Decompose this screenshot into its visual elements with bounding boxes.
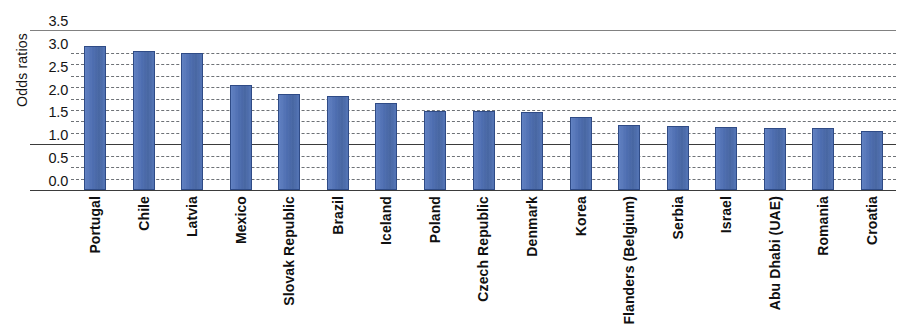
bar[interactable]	[618, 125, 640, 190]
x-tick-label-slot: Israel	[702, 192, 751, 335]
bar[interactable]	[667, 126, 689, 190]
y-tick-label: 2.0	[30, 82, 68, 98]
bar[interactable]	[570, 117, 592, 190]
bar-slot	[861, 8, 883, 192]
x-tick-label-slot: Mexico	[217, 192, 266, 335]
bar-slot	[667, 8, 689, 192]
bar-slot	[424, 8, 446, 192]
y-tick-label: 3.0	[30, 36, 68, 52]
bar-slot	[133, 8, 155, 192]
x-tick-label: Israel	[718, 196, 734, 233]
bar[interactable]	[181, 53, 203, 190]
bar[interactable]	[230, 85, 252, 190]
y-tick-label: 0.5	[30, 150, 68, 166]
x-tick-label: Brazil	[330, 196, 346, 235]
bar-slot	[812, 8, 834, 192]
x-tick-label-slot: Poland	[411, 192, 460, 335]
x-tick-label: Denmark	[524, 196, 540, 257]
bar-slot	[521, 8, 543, 192]
x-tick-label-slot: Iceland	[362, 192, 411, 335]
bar[interactable]	[521, 112, 543, 190]
x-tick-label: Korea	[573, 196, 589, 236]
x-tick-label-slot: Flanders (Belgium)	[605, 192, 654, 335]
bar[interactable]	[764, 128, 786, 190]
x-tick-label-slot: Czech Republic	[459, 192, 508, 335]
x-tick-label: Flanders (Belgium)	[621, 196, 637, 325]
plot-area: 0.00.51.01.52.02.53.03.5	[30, 8, 896, 192]
x-tick-label-slot: Latvia	[168, 192, 217, 335]
x-tick-label: Poland	[427, 196, 443, 243]
x-tick-label-slot: Denmark	[508, 192, 557, 335]
bar-slot	[230, 8, 252, 192]
bar[interactable]	[715, 127, 737, 190]
x-tick-label-slot: Portugal	[71, 192, 120, 335]
bar-slot	[278, 8, 300, 192]
bar-slot	[570, 8, 592, 192]
bar-slot	[764, 8, 786, 192]
x-axis-line	[30, 190, 896, 191]
y-axis-title: Odds ratios	[14, 10, 30, 130]
x-axis-tick-labels: PortugalChileLatviaMexicoSlovak Republic…	[71, 192, 896, 335]
x-tick-label-slot: Slovak Republic	[265, 192, 314, 335]
bar[interactable]	[375, 103, 397, 190]
bar-slot	[84, 8, 106, 192]
x-tick-label: Latvia	[184, 196, 200, 237]
bar[interactable]	[327, 96, 349, 190]
bar-slot	[181, 8, 203, 192]
y-tick-label: 0.0	[30, 173, 68, 189]
odds-ratios-bar-chart: Odds ratios 0.00.51.01.52.02.53.03.5 Por…	[0, 0, 901, 335]
x-tick-label: Slovak Republic	[281, 196, 297, 306]
bar[interactable]	[133, 51, 155, 190]
x-tick-label-slot: Croatia	[847, 192, 896, 335]
bar-slot	[618, 8, 640, 192]
x-tick-label: Portugal	[87, 196, 103, 254]
bar-slot	[473, 8, 495, 192]
bar[interactable]	[278, 94, 300, 190]
x-tick-label-slot: Serbia	[653, 192, 702, 335]
bars-group	[71, 8, 896, 192]
y-tick-label: 3.5	[30, 13, 68, 29]
x-tick-label: Croatia	[864, 196, 880, 245]
bar[interactable]	[424, 111, 446, 190]
y-tick-label: 2.5	[30, 59, 68, 75]
bar[interactable]	[861, 131, 883, 190]
x-tick-label: Iceland	[378, 196, 394, 245]
x-tick-label-slot: Korea	[556, 192, 605, 335]
x-tick-label: Czech Republic	[475, 196, 491, 302]
x-tick-label-slot: Brazil	[314, 192, 363, 335]
x-tick-label: Abu Dhabi (UAE)	[767, 196, 783, 310]
x-tick-label-slot: Romania	[799, 192, 848, 335]
x-tick-label: Mexico	[233, 196, 249, 244]
y-tick-label: 1.5	[30, 104, 68, 120]
bar-slot	[715, 8, 737, 192]
bar[interactable]	[84, 46, 106, 190]
x-tick-label: Chile	[136, 196, 152, 231]
bar[interactable]	[812, 128, 834, 190]
bar-slot	[327, 8, 349, 192]
x-tick-label: Romania	[815, 196, 831, 256]
x-tick-label-slot: Abu Dhabi (UAE)	[750, 192, 799, 335]
bar-slot	[375, 8, 397, 192]
x-tick-label: Serbia	[670, 196, 686, 239]
y-tick-label: 1.0	[30, 127, 68, 143]
bar[interactable]	[473, 111, 495, 190]
x-tick-label-slot: Chile	[120, 192, 169, 335]
